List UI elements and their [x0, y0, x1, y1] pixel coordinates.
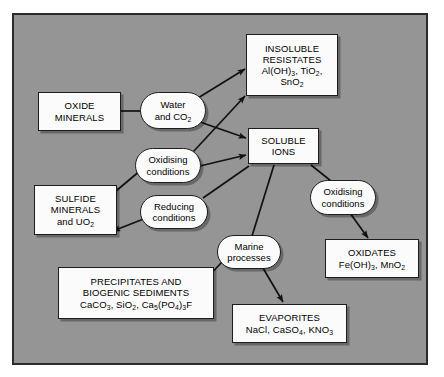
node-oxide-minerals[interactable]: OXIDEMINERALS — [38, 92, 121, 131]
node-soluble-ions-label: SOLUBLEIONS — [258, 135, 309, 157]
node-evaporites-label: EVAPORITESNaCl, CaSO4, KNO3 — [243, 312, 336, 334]
node-reducing-conditions-label: Reducingconditions — [150, 201, 199, 223]
node-marine-processes-label: Marineprocesses — [224, 241, 273, 263]
node-soluble-ions[interactable]: SOLUBLEIONS — [248, 128, 319, 164]
node-precipitates-biogenic-sediments[interactable]: PRECIPITATES ANDBIOGENIC SEDIMENTSCaCO3,… — [58, 267, 214, 319]
node-oxidising-conditions-left-label: Oxidisingconditions — [144, 154, 193, 176]
node-oxidising-conditions-right[interactable]: Oxidisingconditions — [310, 180, 376, 215]
node-sulfide-minerals[interactable]: SULFIDEMINERALSand UO2 — [34, 185, 117, 235]
node-sulfide-minerals-label: SULFIDEMINERALSand UO2 — [48, 193, 103, 227]
node-insoluble-resistates-label: INSOLUBLERESISTATESAl(OH)3, TiO2,SnO2 — [259, 43, 326, 88]
node-reducing-conditions[interactable]: Reducingconditions — [140, 195, 208, 229]
node-water-and-co2-label: Waterand CO2 — [152, 99, 195, 121]
node-evaporites[interactable]: EVAPORITESNaCl, CaSO4, KNO3 — [232, 304, 347, 343]
node-oxidising-conditions-right-label: Oxidisingconditions — [319, 186, 368, 208]
node-insoluble-resistates[interactable]: INSOLUBLERESISTATESAl(OH)3, TiO2,SnO2 — [246, 34, 338, 96]
node-oxidates-label: OXIDATESFe(OH)3, MnO2 — [336, 247, 408, 269]
node-oxidising-conditions-left[interactable]: Oxidisingconditions — [135, 148, 201, 183]
node-precipitates-biogenic-sediments-label: PRECIPITATES ANDBIOGENIC SEDIMENTSCaCO3,… — [77, 276, 195, 310]
node-oxide-minerals-label: OXIDEMINERALS — [52, 100, 107, 122]
node-marine-processes[interactable]: Marineprocesses — [217, 235, 281, 269]
node-water-and-co2[interactable]: Waterand CO2 — [140, 92, 206, 129]
diagram-canvas: OXIDEMINERALS Waterand CO2 INSOLUBLERESI… — [0, 0, 444, 377]
node-oxidates[interactable]: OXIDATESFe(OH)3, MnO2 — [325, 239, 419, 278]
